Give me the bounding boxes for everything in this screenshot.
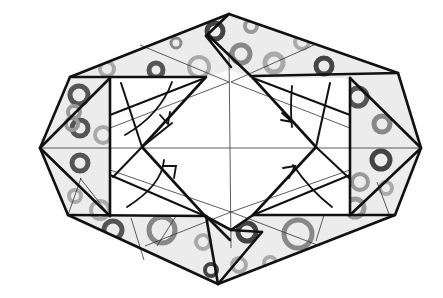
origami-diagram: Origami folding diagram: octagonal tesse… xyxy=(0,0,443,298)
center-fill xyxy=(205,70,253,230)
diagram-canvas xyxy=(0,0,443,298)
